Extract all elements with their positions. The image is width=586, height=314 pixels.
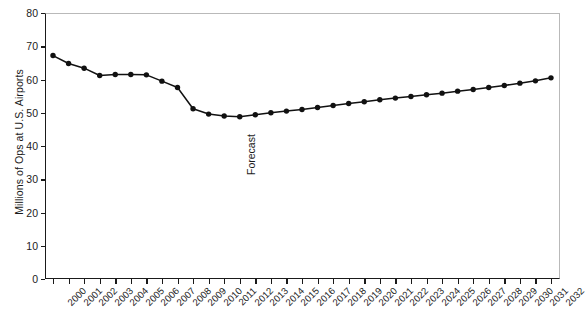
data-point-marker bbox=[253, 112, 258, 117]
data-point-marker bbox=[206, 111, 211, 116]
x-tick-mark bbox=[333, 279, 334, 284]
data-point-marker bbox=[548, 75, 553, 80]
data-point-marker bbox=[190, 106, 195, 111]
x-tick-mark bbox=[364, 279, 365, 284]
data-point-marker bbox=[268, 110, 273, 115]
x-tick-mark bbox=[458, 279, 459, 284]
x-tick-mark bbox=[473, 279, 474, 284]
data-point-marker bbox=[237, 114, 242, 119]
x-tick-mark bbox=[131, 279, 132, 284]
x-tick-mark bbox=[489, 279, 490, 284]
data-point-marker bbox=[424, 92, 429, 97]
x-tick-mark bbox=[271, 279, 272, 284]
x-tick-mark bbox=[318, 279, 319, 284]
x-tick-mark bbox=[240, 279, 241, 284]
y-tick-label: 80 bbox=[4, 7, 38, 19]
x-tick-mark bbox=[286, 279, 287, 284]
x-tick-mark bbox=[178, 279, 179, 284]
data-point-marker bbox=[128, 72, 133, 77]
y-tick-mark bbox=[41, 279, 45, 280]
x-tick-mark bbox=[224, 279, 225, 284]
x-tick-mark bbox=[427, 279, 428, 284]
x-tick-mark bbox=[302, 279, 303, 284]
x-tick-mark bbox=[69, 279, 70, 284]
x-tick-mark bbox=[115, 279, 116, 284]
x-tick-mark bbox=[535, 279, 536, 284]
x-tick-mark bbox=[349, 279, 350, 284]
data-point-marker bbox=[284, 108, 289, 113]
x-tick-mark bbox=[411, 279, 412, 284]
data-point-marker bbox=[330, 103, 335, 108]
data-point-marker bbox=[486, 85, 491, 90]
data-point-marker bbox=[159, 78, 164, 83]
x-tick-mark bbox=[84, 279, 85, 284]
x-tick-mark bbox=[193, 279, 194, 284]
data-point-marker bbox=[362, 99, 367, 104]
data-point-marker bbox=[408, 94, 413, 99]
data-point-marker bbox=[346, 101, 351, 106]
x-tick-mark bbox=[551, 279, 552, 284]
data-point-marker bbox=[113, 72, 118, 77]
data-point-marker bbox=[221, 113, 226, 118]
data-point-marker bbox=[50, 53, 55, 58]
data-point-marker bbox=[144, 72, 149, 77]
x-tick-mark bbox=[520, 279, 521, 284]
data-point-marker bbox=[377, 97, 382, 102]
x-tick-mark bbox=[380, 279, 381, 284]
data-series-line bbox=[45, 13, 560, 279]
y-tick-label: 0 bbox=[4, 273, 38, 285]
x-tick-mark bbox=[146, 279, 147, 284]
x-tick-mark bbox=[504, 279, 505, 284]
data-point-marker bbox=[470, 87, 475, 92]
data-point-marker bbox=[81, 65, 86, 70]
x-tick-mark bbox=[395, 279, 396, 284]
data-point-marker bbox=[439, 90, 444, 95]
x-tick-mark bbox=[442, 279, 443, 284]
data-point-marker bbox=[455, 88, 460, 93]
x-tick-mark bbox=[209, 279, 210, 284]
y-axis-title: Millions of Ops at U.S. Airports bbox=[13, 27, 25, 257]
data-point-marker bbox=[517, 80, 522, 85]
forecast-annotation: Forecast bbox=[245, 134, 257, 175]
data-point-marker bbox=[97, 73, 102, 78]
data-point-marker bbox=[393, 95, 398, 100]
plot-area bbox=[45, 13, 560, 279]
data-point-marker bbox=[502, 83, 507, 88]
data-point-marker bbox=[315, 105, 320, 110]
data-point-marker bbox=[66, 61, 71, 66]
data-point-marker bbox=[299, 107, 304, 112]
x-tick-mark bbox=[53, 279, 54, 284]
x-tick-mark bbox=[100, 279, 101, 284]
x-tick-mark bbox=[255, 279, 256, 284]
data-point-marker bbox=[533, 78, 538, 83]
data-point-marker bbox=[175, 85, 180, 90]
x-tick-mark bbox=[162, 279, 163, 284]
